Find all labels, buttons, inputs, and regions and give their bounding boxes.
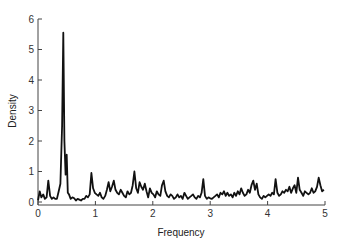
y-tick-label: 0 (28, 197, 34, 208)
x-tick-label: 2 (150, 208, 156, 219)
x-tick-label: 5 (322, 208, 328, 219)
density-line-chart: 0123456 012345 Frequency Density (0, 0, 341, 246)
y-axis: 0123456 (28, 14, 42, 208)
x-tick-label: 3 (207, 208, 213, 219)
y-tick-label: 3 (28, 105, 34, 116)
y-axis-label: Density (7, 94, 18, 127)
y-tick-label: 2 (28, 136, 34, 147)
y-tick-label: 5 (28, 44, 34, 55)
y-tick-label: 1 (28, 166, 34, 177)
x-axis-label: Frequency (157, 227, 204, 238)
x-axis: 012345 (35, 201, 328, 219)
x-tick-label: 0 (35, 208, 41, 219)
x-tick-label: 4 (265, 208, 271, 219)
y-tick-label: 6 (28, 14, 34, 25)
density-series-line (38, 33, 324, 201)
y-tick-label: 4 (28, 75, 34, 86)
x-tick-label: 1 (93, 208, 99, 219)
